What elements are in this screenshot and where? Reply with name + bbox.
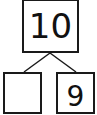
part-box-left[interactable]: [3, 72, 42, 114]
part-right-value: 9: [67, 80, 85, 113]
part-box-right: 9: [56, 72, 95, 114]
connector-right: [50, 53, 76, 72]
whole-box: 10: [22, 0, 79, 53]
whole-value: 10: [29, 6, 72, 46]
connector-left: [24, 53, 50, 72]
